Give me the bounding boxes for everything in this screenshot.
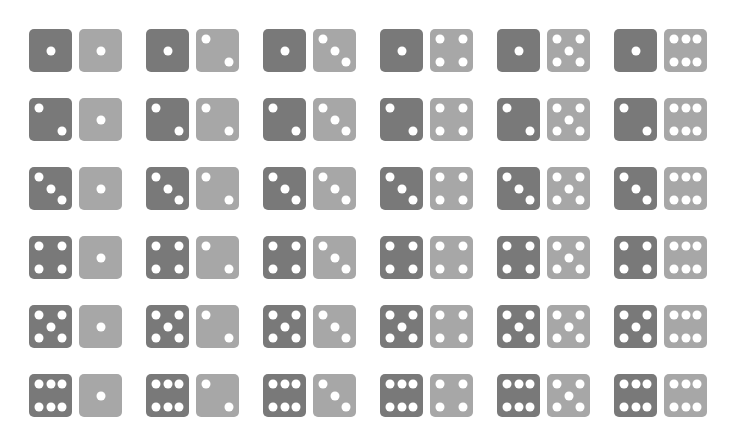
dark-die-face-1: [497, 29, 540, 72]
pip-icon: [643, 265, 652, 274]
dark-die-face-5: [497, 305, 540, 348]
pip-icon: [526, 334, 535, 343]
pip-icon: [619, 172, 628, 181]
pip-icon: [502, 103, 511, 112]
pip-icon: [576, 196, 585, 205]
pip-icon: [96, 46, 105, 55]
dice-pair: [263, 305, 357, 349]
dark-die-face-2: [497, 98, 540, 141]
pip-icon: [693, 241, 702, 250]
pip-icon: [564, 391, 573, 400]
pip-icon: [552, 58, 561, 67]
pip-icon: [318, 310, 327, 319]
light-die-face-4: [430, 236, 473, 279]
pip-icon: [619, 334, 628, 343]
pip-icon: [459, 34, 468, 43]
pip-icon: [435, 403, 444, 412]
pip-icon: [225, 334, 234, 343]
light-die-face-1: [79, 236, 122, 279]
light-die-face-6: [664, 29, 707, 72]
pip-icon: [318, 379, 327, 388]
pip-icon: [526, 265, 535, 274]
dark-die-face-1: [29, 29, 72, 72]
pip-icon: [280, 184, 289, 193]
pip-icon: [151, 310, 160, 319]
pip-icon: [330, 46, 339, 55]
pip-icon: [526, 403, 535, 412]
dark-die-face-6: [614, 374, 657, 417]
pip-icon: [268, 379, 277, 388]
light-die-face-4: [430, 29, 473, 72]
light-die-face-4: [430, 167, 473, 210]
pip-icon: [552, 103, 561, 112]
pip-icon: [435, 127, 444, 136]
pip-icon: [268, 310, 277, 319]
pip-icon: [502, 310, 511, 319]
pip-icon: [34, 334, 43, 343]
pip-icon: [225, 196, 234, 205]
pip-icon: [58, 265, 67, 274]
pip-icon: [342, 403, 351, 412]
light-die-face-3: [313, 374, 356, 417]
light-die-face-1: [79, 374, 122, 417]
dark-die-face-3: [29, 167, 72, 210]
pip-icon: [163, 46, 172, 55]
light-die-face-2: [196, 305, 239, 348]
pip-icon: [502, 241, 511, 250]
pip-icon: [459, 334, 468, 343]
dark-die-face-4: [146, 236, 189, 279]
pip-icon: [58, 310, 67, 319]
pip-icon: [669, 403, 678, 412]
pip-icon: [34, 172, 43, 181]
dice-pair: [614, 167, 708, 211]
pip-icon: [576, 379, 585, 388]
pip-icon: [385, 379, 394, 388]
pip-icon: [459, 103, 468, 112]
pip-icon: [552, 334, 561, 343]
pip-icon: [526, 379, 535, 388]
pip-icon: [175, 127, 184, 136]
dice-pair: [29, 374, 123, 418]
pip-icon: [619, 310, 628, 319]
pip-icon: [576, 58, 585, 67]
dice-pair: [380, 374, 474, 418]
pip-icon: [502, 334, 511, 343]
dice-pair: [263, 236, 357, 280]
dice-pair: [614, 374, 708, 418]
dark-die-face-1: [614, 29, 657, 72]
pip-icon: [459, 265, 468, 274]
pip-icon: [151, 334, 160, 343]
pip-icon: [46, 184, 55, 193]
dark-die-face-6: [29, 374, 72, 417]
light-die-face-5: [547, 29, 590, 72]
dice-pair: [497, 98, 591, 142]
pip-icon: [514, 46, 523, 55]
pip-icon: [330, 391, 339, 400]
dark-die-face-6: [497, 374, 540, 417]
dark-die-face-4: [263, 236, 306, 279]
pip-icon: [342, 334, 351, 343]
pip-icon: [619, 403, 628, 412]
light-die-face-3: [313, 98, 356, 141]
pip-icon: [552, 379, 561, 388]
light-die-face-2: [196, 98, 239, 141]
dark-die-face-6: [263, 374, 306, 417]
dice-pair: [263, 98, 357, 142]
dice-pair: [29, 236, 123, 280]
pip-icon: [280, 379, 289, 388]
dice-pair: [146, 236, 240, 280]
dark-die-face-2: [263, 98, 306, 141]
pip-icon: [397, 379, 406, 388]
pip-icon: [435, 196, 444, 205]
dice-pair: [146, 374, 240, 418]
pip-icon: [34, 379, 43, 388]
pip-icon: [502, 379, 511, 388]
pip-icon: [552, 265, 561, 274]
pip-icon: [163, 379, 172, 388]
dice-pair: [29, 305, 123, 349]
pip-icon: [631, 46, 640, 55]
pip-icon: [669, 34, 678, 43]
pip-icon: [409, 403, 418, 412]
pip-icon: [526, 241, 535, 250]
pip-icon: [681, 34, 690, 43]
